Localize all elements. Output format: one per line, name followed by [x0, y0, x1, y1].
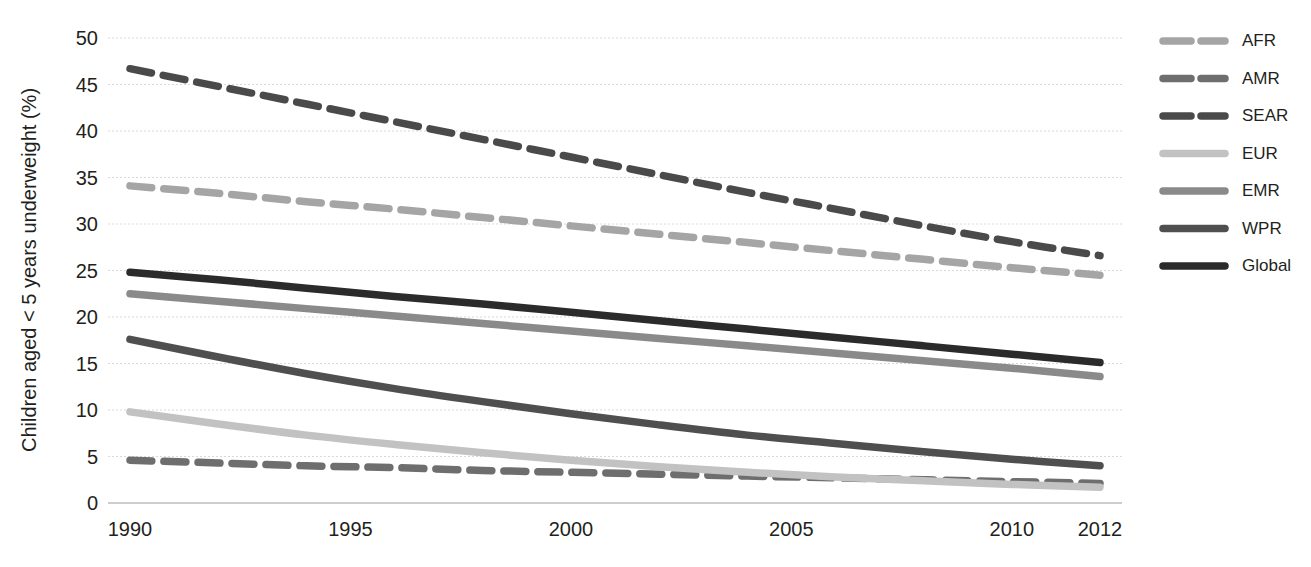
y-tick-label: 50 — [76, 27, 98, 49]
x-tick-label: 1995 — [328, 518, 373, 540]
y-tick-label: 35 — [76, 167, 98, 189]
legend-label: AMR — [1242, 69, 1280, 88]
legend-item-global[interactable]: Global — [1157, 252, 1305, 280]
legend-label: EMR — [1242, 181, 1280, 200]
y-tick-label: 25 — [76, 260, 98, 282]
x-tick-label: 2000 — [549, 518, 594, 540]
y-tick-label: 40 — [76, 120, 98, 142]
legend-item-afr[interactable]: AFR — [1157, 27, 1305, 55]
y-axis-title-text: Children aged < 5 years underweight (%) — [18, 88, 40, 452]
legend-item-eur[interactable]: EUR — [1157, 140, 1305, 168]
y-tick-label: 0 — [87, 492, 98, 514]
legend-item-amr[interactable]: AMR — [1157, 65, 1305, 93]
legend-label: Global — [1242, 256, 1291, 275]
legend-label: WPR — [1242, 219, 1282, 238]
y-tick-label: 30 — [76, 213, 98, 235]
y-tick-label: 45 — [76, 74, 98, 96]
legend-item-emr[interactable]: EMR — [1157, 177, 1305, 205]
underweight-children-line-chart: Children aged < 5 years underweight (%) … — [0, 0, 1311, 567]
y-tick-label: 15 — [76, 353, 98, 375]
legend-label: EUR — [1242, 144, 1278, 163]
y-tick-label: 20 — [76, 306, 98, 328]
legend: AFRAMRSEAREUREMRWPRGlobal — [1157, 27, 1305, 280]
legend-label: SEAR — [1242, 106, 1288, 125]
legend-label: AFR — [1242, 31, 1276, 50]
x-tick-label: 2005 — [769, 518, 814, 540]
x-tick-label: 2010 — [990, 518, 1035, 540]
x-tick-label: 1990 — [108, 518, 153, 540]
y-tick-label: 5 — [87, 446, 98, 468]
y-axis-title: Children aged < 5 years underweight (%) — [18, 88, 40, 452]
legend-item-wpr[interactable]: WPR — [1157, 215, 1305, 243]
y-tick-label: 10 — [76, 399, 98, 421]
legend-item-sear[interactable]: SEAR — [1157, 102, 1305, 130]
x-tick-label: 2012 — [1078, 518, 1123, 540]
